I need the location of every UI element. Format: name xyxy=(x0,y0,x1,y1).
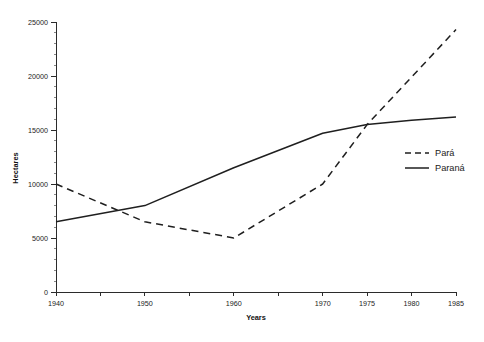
series-line-1 xyxy=(56,30,456,238)
y-tick-label: 0 xyxy=(44,288,48,297)
x-axis-title: Years xyxy=(246,313,266,322)
x-tick-label: 1970 xyxy=(315,299,331,308)
legend-label-1: Pará xyxy=(435,148,455,158)
x-tick-label: 1980 xyxy=(404,299,420,308)
x-tick-label: 1960 xyxy=(226,299,242,308)
data-series-group xyxy=(56,30,456,238)
x-tick-label: 1950 xyxy=(137,299,153,308)
y-tick-label: 5000 xyxy=(32,234,48,243)
y-tick-label: 25000 xyxy=(28,18,48,27)
x-tick-label: 1985 xyxy=(448,299,464,308)
y-axis-title: Hectares xyxy=(11,152,20,183)
y-axis: 0500010000150002000025000 Hectares xyxy=(11,18,56,297)
y-tick-label: 20000 xyxy=(28,72,48,81)
line-chart: 0500010000150002000025000 Hectares 19401… xyxy=(0,0,484,342)
legend-label-2: Paraná xyxy=(435,163,466,173)
x-axis-tick-labels: 1940195019601970197519801985 xyxy=(48,299,464,308)
y-tick-label: 15000 xyxy=(28,126,48,135)
chart-canvas: 0500010000150002000025000 Hectares 19401… xyxy=(0,0,484,342)
x-axis-ticks xyxy=(56,292,456,296)
y-axis-ticks xyxy=(51,22,56,292)
series-line-2 xyxy=(56,117,456,222)
chart-legend: ParáParaná xyxy=(405,148,466,173)
x-axis: 1940195019601970197519801985 Years xyxy=(48,292,464,322)
y-axis-tick-labels: 0500010000150002000025000 xyxy=(28,18,48,297)
y-tick-label: 10000 xyxy=(28,180,48,189)
x-tick-label: 1975 xyxy=(359,299,375,308)
x-tick-label: 1940 xyxy=(48,299,64,308)
